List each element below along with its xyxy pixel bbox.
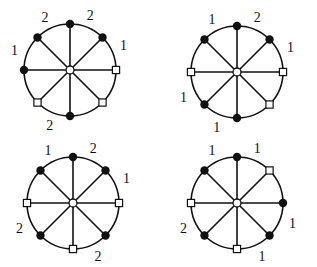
- spoke: [204, 39, 237, 72]
- filled-node: [101, 166, 109, 174]
- spoke: [70, 37, 103, 70]
- spoke: [237, 39, 270, 72]
- node-label: 2: [254, 10, 261, 25]
- open-square-node: [99, 99, 106, 106]
- filled-node: [33, 33, 41, 41]
- spoke: [40, 170, 73, 203]
- spoke: [204, 203, 237, 236]
- wheel-bottom-right: 11121: [180, 141, 296, 265]
- wheel-bottom-left: 21221: [16, 141, 130, 265]
- spoke: [40, 203, 73, 236]
- filled-node: [233, 114, 241, 122]
- open-square-node: [279, 68, 286, 75]
- node-label: 2: [180, 221, 187, 236]
- filled-node: [98, 33, 106, 41]
- spoke: [73, 203, 106, 236]
- filled-node: [279, 199, 287, 207]
- node-label: 2: [94, 249, 101, 264]
- node-label: 1: [180, 90, 187, 105]
- open-square-node: [34, 99, 41, 106]
- hub-node: [233, 199, 241, 207]
- filled-node: [20, 66, 28, 74]
- open-square-node: [23, 199, 30, 206]
- node-label: 2: [16, 221, 23, 236]
- filled-node: [69, 153, 77, 161]
- filled-node: [36, 231, 44, 239]
- node-label: 1: [45, 143, 52, 158]
- node-label: 1: [11, 43, 18, 58]
- spoke: [37, 37, 70, 70]
- open-square-node: [112, 66, 119, 73]
- open-square-node: [266, 167, 273, 174]
- filled-node: [200, 100, 208, 108]
- open-square-node: [187, 68, 194, 75]
- node-label: 1: [287, 40, 294, 55]
- spoke: [237, 170, 270, 203]
- hub-node: [66, 66, 74, 74]
- spoke: [204, 170, 237, 203]
- filled-node: [101, 231, 109, 239]
- filled-node: [66, 112, 74, 120]
- node-label: 2: [42, 10, 49, 25]
- node-label: 1: [209, 143, 216, 158]
- node-label: 1: [254, 141, 261, 156]
- node-label: 2: [46, 118, 53, 133]
- spoke: [237, 72, 270, 105]
- node-label: 1: [289, 216, 296, 231]
- spoke: [237, 203, 270, 236]
- node-label: 1: [120, 38, 127, 53]
- filled-node: [200, 35, 208, 43]
- node-label: 1: [209, 12, 216, 27]
- node-label: 1: [258, 249, 265, 264]
- filled-node: [265, 35, 273, 43]
- filled-node: [200, 231, 208, 239]
- spoke: [70, 70, 103, 103]
- open-square-node: [69, 245, 76, 252]
- hub-node: [69, 199, 77, 207]
- hub-node: [233, 68, 241, 76]
- filled-node: [200, 166, 208, 174]
- spoke: [204, 72, 237, 105]
- open-square-node: [266, 101, 273, 108]
- wheel-top-right: 21111: [180, 10, 294, 136]
- node-label: 2: [90, 141, 97, 156]
- open-square-node: [187, 199, 194, 206]
- node-label: 1: [123, 171, 130, 186]
- wheel-diagrams: 21212211112122111121: [0, 0, 317, 267]
- node-label: 1: [213, 120, 220, 135]
- filled-node: [233, 22, 241, 30]
- open-square-node: [115, 199, 122, 206]
- filled-node: [265, 231, 273, 239]
- filled-node: [233, 153, 241, 161]
- node-label: 2: [87, 8, 94, 23]
- wheel-top-left: 21212: [11, 8, 127, 134]
- spoke: [37, 70, 70, 103]
- open-square-node: [233, 245, 240, 252]
- filled-node: [66, 20, 74, 28]
- filled-node: [36, 166, 44, 174]
- spoke: [73, 170, 106, 203]
